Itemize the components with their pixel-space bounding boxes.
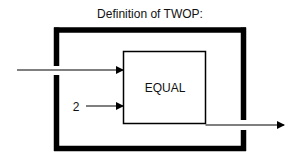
- equal-block-label: EQUAL: [145, 81, 186, 95]
- input-2-label: 2: [73, 100, 80, 114]
- diagram-title: Definition of TWOP:: [97, 7, 203, 21]
- twop-definition-diagram: Definition of TWOP: EQUAL 2: [0, 0, 297, 160]
